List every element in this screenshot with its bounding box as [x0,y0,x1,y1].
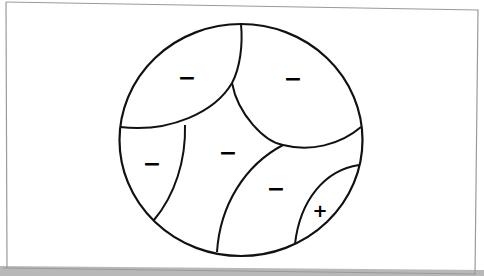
outer-circle [120,24,363,256]
sign-center: − [219,140,237,165]
boundary-top-right [232,83,361,148]
diagram-canvas: − − − − − + [0,0,484,276]
sign-left: − [143,151,161,176]
diagram-page: − − − − − + [0,0,484,276]
sign-lower-right: − [267,176,285,201]
sign-top-right: − [284,66,302,91]
sign-plus-lens: + [312,200,327,221]
frame-left-edge [6,2,7,268]
sign-top-left: − [178,65,196,90]
